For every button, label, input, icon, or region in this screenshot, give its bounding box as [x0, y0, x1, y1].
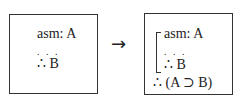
subproof-conclusion-line: ∴ B: [164, 58, 186, 72]
assumption-line: asm: A: [164, 27, 203, 41]
conditional-proof-box: asm: A . . . ∴ B ∴ (A ⊃ B): [144, 13, 233, 95]
conditional-conclusion-line: ∴ (A ⊃ B): [153, 76, 212, 90]
right-arrow-icon: →: [111, 33, 126, 54]
subproof-bracket: [156, 32, 161, 73]
conclusion-line: ∴ B: [37, 57, 59, 71]
premise-derivation-box: asm: A . . . ∴ B: [9, 14, 98, 94]
assumption-line: asm: A: [37, 27, 76, 41]
